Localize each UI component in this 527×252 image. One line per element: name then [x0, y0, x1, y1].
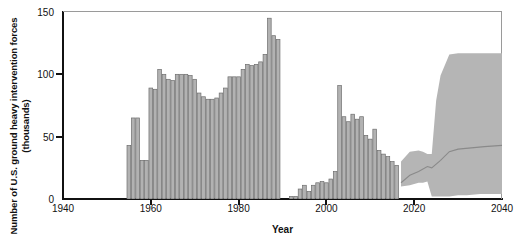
bar: [382, 154, 386, 199]
bar: [175, 74, 179, 199]
bar: [325, 183, 329, 199]
bar: [210, 99, 214, 199]
bar: [351, 114, 355, 199]
y-tick-label: 50: [43, 131, 54, 142]
bar: [338, 86, 342, 199]
bar: [364, 135, 368, 199]
bar: [298, 189, 302, 199]
bar: [289, 197, 293, 199]
bar: [267, 18, 271, 199]
y-tick-mark: [56, 136, 63, 138]
bar: [153, 89, 157, 199]
bar: [333, 172, 337, 199]
bar: [377, 150, 381, 199]
x-tick-label: 1980: [227, 203, 249, 214]
bar: [316, 183, 320, 199]
bar: [263, 54, 267, 199]
bar: [228, 77, 232, 199]
bar: [241, 69, 245, 199]
bar: [197, 93, 201, 199]
bar: [184, 74, 188, 199]
bar: [202, 97, 206, 199]
bar: [180, 74, 184, 199]
x-tick-label: 2000: [315, 203, 337, 214]
bar: [276, 39, 280, 199]
bar: [215, 98, 219, 199]
plot-area: 050100150 194019601980200020202040: [63, 12, 502, 199]
bar: [329, 179, 333, 199]
bar: [167, 79, 171, 199]
bar: [145, 160, 149, 199]
bar: [254, 64, 258, 199]
bar: [360, 117, 364, 199]
bar: [162, 74, 166, 199]
bar: [188, 76, 192, 199]
x-tick-label: 2040: [491, 203, 513, 214]
x-tick-label: 1960: [140, 203, 162, 214]
bar: [294, 197, 298, 199]
x-axis-title: Year: [63, 224, 502, 235]
bar: [219, 93, 223, 199]
bar: [303, 185, 307, 199]
x-tick-label: 1940: [52, 203, 74, 214]
y-axis-title-text: Number of U.S. ground heavy intervention…: [8, 0, 32, 252]
bar: [368, 139, 372, 199]
bar: [259, 62, 263, 199]
y-tick-mark: [56, 73, 63, 75]
bar: [272, 36, 276, 199]
bar: [131, 118, 135, 199]
bar: [136, 118, 140, 199]
bar: [320, 182, 324, 199]
bar: [373, 129, 377, 199]
bar: [140, 160, 144, 199]
bar: [127, 145, 131, 199]
bar-series-layer: [63, 12, 502, 199]
bar: [149, 88, 153, 199]
y-axis-title: Number of U.S. ground heavy intervention…: [0, 0, 40, 252]
bar: [347, 122, 351, 199]
x-tick-label: 2020: [403, 203, 425, 214]
bar: [395, 165, 399, 199]
bar: [193, 79, 197, 199]
bar: [246, 64, 250, 199]
bar: [311, 185, 315, 199]
bar: [171, 81, 175, 199]
bar: [158, 69, 162, 199]
bar: [237, 77, 241, 199]
bar: [355, 119, 359, 199]
bar: [206, 99, 210, 199]
bar: [342, 117, 346, 199]
y-tick-label: 150: [37, 7, 54, 18]
chart-figure: Number of U.S. ground heavy intervention…: [0, 0, 527, 252]
bar: [232, 77, 236, 199]
bar: [224, 88, 228, 199]
x-axis-title-text: Year: [272, 224, 293, 235]
bar: [250, 66, 254, 199]
bar: [386, 157, 390, 199]
bar: [390, 162, 394, 199]
y-tick-label: 100: [37, 69, 54, 80]
bar: [307, 192, 311, 199]
